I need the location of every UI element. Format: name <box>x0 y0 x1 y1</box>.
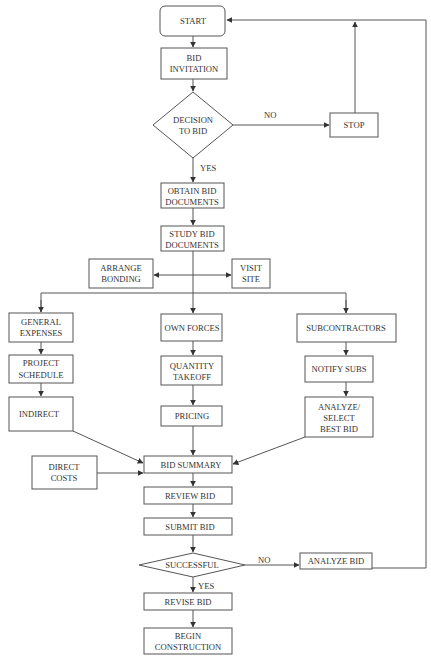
node-submit-bid: SUBMIT BID <box>144 518 232 535</box>
svg-text:BEST BID: BEST BID <box>320 424 358 434</box>
node-analyze-select-best-bid: ANALYZE/ SELECT BEST BID <box>305 397 373 437</box>
node-subcontractors: SUBCONTRACTORS <box>297 314 396 342</box>
edge-analyze-select-to-summary <box>233 437 305 464</box>
svg-text:DOCUMENTS: DOCUMENTS <box>165 197 219 207</box>
flowchart-canvas: NO YES NO YES START BID INVITATION DECIS… <box>0 0 431 664</box>
node-decision-to-bid: DECISION TO BID <box>153 92 233 158</box>
svg-text:SUBCONTRACTORS: SUBCONTRACTORS <box>306 323 386 333</box>
node-start: START <box>160 6 225 36</box>
svg-text:REVIEW BID: REVIEW BID <box>165 491 215 501</box>
svg-text:ANALYZE/: ANALYZE/ <box>318 402 361 412</box>
svg-text:TO BID: TO BID <box>179 126 207 136</box>
svg-text:BEGIN: BEGIN <box>175 631 202 641</box>
node-visit-site: VISIT SITE <box>232 259 270 288</box>
label-decision-yes: YES <box>200 163 216 173</box>
node-arrange-bonding: ARRANGE BONDING <box>89 259 153 288</box>
node-stop: STOP <box>330 113 378 137</box>
svg-text:SUCCESSFUL: SUCCESSFUL <box>165 560 219 570</box>
node-quantity-takeoff: QUANTITY TAKEOFF <box>161 356 222 385</box>
svg-text:GENERAL: GENERAL <box>21 317 61 327</box>
svg-text:EXPENSES: EXPENSES <box>20 328 63 338</box>
svg-text:OBTAIN BID: OBTAIN BID <box>168 186 217 196</box>
node-own-forces: OWN FORCES <box>161 314 222 341</box>
svg-text:INVITATION: INVITATION <box>170 64 219 74</box>
svg-text:BID SUMMARY: BID SUMMARY <box>161 460 222 470</box>
svg-text:PROJECT: PROJECT <box>23 358 60 368</box>
edge-analyze-bid-loop-to-start <box>227 20 426 568</box>
svg-text:DOCUMENTS: DOCUMENTS <box>165 240 219 250</box>
svg-text:SCHEDULE: SCHEDULE <box>19 370 64 380</box>
svg-text:ARRANGE: ARRANGE <box>100 263 142 273</box>
svg-text:REVISE BID: REVISE BID <box>164 597 211 607</box>
svg-text:SUBMIT BID: SUBMIT BID <box>165 522 214 532</box>
svg-text:STUDY BID: STUDY BID <box>169 229 214 239</box>
node-notify-subs: NOTIFY SUBS <box>305 356 373 382</box>
node-revise-bid: REVISE BID <box>144 593 232 610</box>
flowchart-svg: NO YES NO YES START BID INVITATION DECIS… <box>0 0 431 664</box>
node-analyze-bid: ANALYZE BID <box>300 553 372 569</box>
node-obtain-bid-documents: OBTAIN BID DOCUMENTS <box>161 183 224 208</box>
svg-text:DIRECT: DIRECT <box>48 462 80 472</box>
svg-text:PRICING: PRICING <box>175 411 209 421</box>
svg-text:BONDING: BONDING <box>101 274 141 284</box>
node-review-bid: REVIEW BID <box>144 487 232 504</box>
svg-text:TAKEOFF: TAKEOFF <box>173 372 211 382</box>
svg-text:SITE: SITE <box>242 274 260 284</box>
svg-text:STOP: STOP <box>344 120 365 130</box>
svg-text:INDIRECT: INDIRECT <box>19 409 60 419</box>
svg-text:NOTIFY SUBS: NOTIFY SUBS <box>312 364 367 374</box>
svg-text:OWN FORCES: OWN FORCES <box>164 323 219 333</box>
svg-text:START: START <box>180 16 207 26</box>
node-direct-costs: DIRECT COSTS <box>32 456 97 489</box>
svg-text:CONSTRUCTION: CONSTRUCTION <box>155 642 222 652</box>
node-pricing: PRICING <box>161 406 222 426</box>
node-bid-invitation: BID INVITATION <box>161 48 227 79</box>
label-decision-no: NO <box>264 110 276 120</box>
svg-text:COSTS: COSTS <box>51 473 78 483</box>
svg-text:DECISION: DECISION <box>173 115 214 125</box>
label-successful-yes: YES <box>198 581 214 591</box>
svg-text:ANALYZE BID: ANALYZE BID <box>308 556 365 566</box>
node-successful: SUCCESSFUL <box>139 553 245 577</box>
node-general-expenses: GENERAL EXPENSES <box>9 313 73 342</box>
svg-text:QUANTITY: QUANTITY <box>170 361 214 371</box>
node-bid-summary: BID SUMMARY <box>144 456 232 473</box>
node-study-bid-documents: STUDY BID DOCUMENTS <box>161 226 224 251</box>
node-project-schedule: PROJECT SCHEDULE <box>9 355 73 383</box>
node-indirect: INDIRECT <box>9 397 73 431</box>
label-successful-no: NO <box>258 555 270 565</box>
svg-text:SELECT: SELECT <box>323 413 355 423</box>
svg-text:VISIT: VISIT <box>240 263 263 273</box>
node-begin-construction: BEGIN CONSTRUCTION <box>144 628 232 654</box>
svg-text:BID: BID <box>187 53 202 63</box>
